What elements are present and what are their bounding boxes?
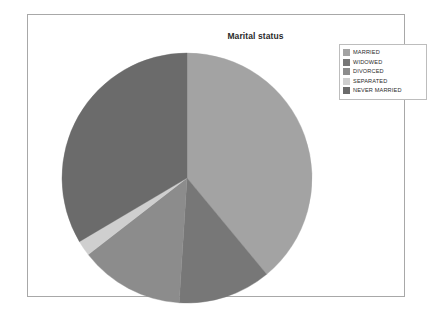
legend-swatch-divorced [343, 68, 350, 75]
legend-label-married: MARRIED [353, 48, 380, 57]
chart-frame: Marital status MARRIED WIDOWED DIVORCED … [27, 14, 405, 297]
legend-swatch-separated [343, 78, 350, 85]
legend-label-widowed: WIDOWED [353, 58, 382, 67]
legend-label-divorced: DIVORCED [353, 67, 384, 76]
legend-swatch-married [343, 49, 350, 56]
pie-svg [56, 47, 322, 312]
legend-swatch-widowed [343, 59, 350, 66]
legend-item-divorced[interactable]: DIVORCED [343, 67, 424, 76]
legend-swatch-never-married [343, 87, 350, 94]
legend-item-never-married[interactable]: NEVER MARRIED [343, 86, 424, 95]
legend-label-never-married: NEVER MARRIED [353, 86, 402, 95]
legend-item-married[interactable]: MARRIED [343, 48, 424, 57]
legend-item-widowed[interactable]: WIDOWED [343, 58, 424, 67]
legend: MARRIED WIDOWED DIVORCED SEPARATED NEVER… [339, 44, 427, 100]
chart-title: Marital status [183, 31, 328, 41]
legend-label-separated: SEPARATED [353, 77, 387, 86]
legend-item-separated[interactable]: SEPARATED [343, 77, 424, 86]
pie-chart [56, 47, 322, 312]
